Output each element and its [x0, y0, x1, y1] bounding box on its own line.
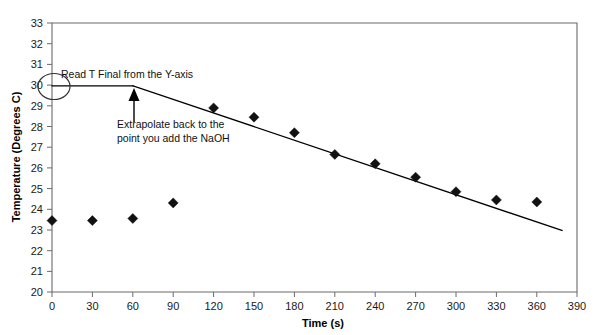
- y-tick-label: 28: [31, 121, 43, 133]
- x-tick-label: 30: [86, 300, 98, 312]
- y-tick-label: 23: [31, 224, 43, 236]
- y-tick-label: 33: [31, 17, 43, 29]
- y-tick-label: 27: [31, 141, 43, 153]
- chart-background: [0, 0, 605, 335]
- y-tick-label: 30: [31, 79, 43, 91]
- x-tick-label: 270: [406, 300, 424, 312]
- y-tick-label: 29: [31, 100, 43, 112]
- x-tick-label: 240: [366, 300, 384, 312]
- x-axis-title: Time (s): [302, 317, 344, 329]
- y-tick-label: 31: [31, 58, 43, 70]
- y-tick-label: 20: [31, 286, 43, 298]
- y-tick-label: 25: [31, 183, 43, 195]
- chart-screenshot: 33 32 31 30 29 28 27 26 25 24 23 22 21 2…: [0, 0, 605, 335]
- x-tick-label: 210: [326, 300, 344, 312]
- read-t-final-annotation: Read T Final from the Y-axis: [61, 68, 193, 80]
- y-tick-label: 24: [31, 203, 43, 215]
- temperature-vs-time-chart: 33 32 31 30 29 28 27 26 25 24 23 22 21 2…: [0, 0, 605, 335]
- extrapolate-annotation-line-2: point you add the NaOH: [117, 132, 230, 144]
- y-tick-label: 22: [31, 245, 43, 257]
- y-axis-title: Temperature (Degrees C): [10, 91, 22, 222]
- x-tick-label: 60: [127, 300, 139, 312]
- y-tick-label: 21: [31, 265, 43, 277]
- x-tick-label: 390: [568, 300, 586, 312]
- x-tick-label: 300: [447, 300, 465, 312]
- x-tick-label: 330: [487, 300, 505, 312]
- x-tick-label: 180: [285, 300, 303, 312]
- y-tick-label: 26: [31, 162, 43, 174]
- y-tick-label: 32: [31, 38, 43, 50]
- x-tick-label: 120: [204, 300, 222, 312]
- x-tick-label: 360: [528, 300, 546, 312]
- x-tick-label: 90: [167, 300, 179, 312]
- x-tick-label: 0: [49, 300, 55, 312]
- x-tick-label: 150: [245, 300, 263, 312]
- extrapolate-annotation-line-1: Extrapolate back to the: [117, 118, 225, 130]
